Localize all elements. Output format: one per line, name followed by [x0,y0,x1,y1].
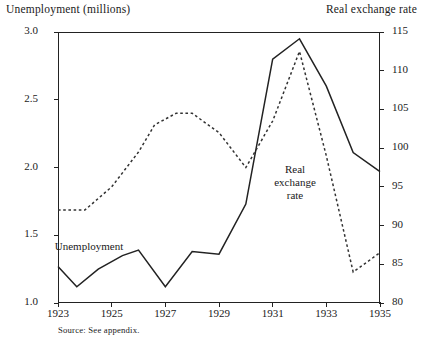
x-tick-label: 1933 [296,307,356,319]
tick-mark [380,302,381,307]
x-tick-label: 1925 [82,307,142,319]
x-tick-label: 1923 [28,307,88,319]
right-tick-label: 110 [392,63,408,75]
series-canvas [58,32,380,303]
right-tick-label: 85 [392,256,403,268]
chart-figure: Unemployment (millions) Real exchange ra… [0,0,423,344]
tick-mark [379,264,384,265]
left-axis-title: Unemployment (millions) [6,3,130,15]
right-tick-label: 80 [392,295,403,307]
annotation-real-exchange-rate-line2: exchange [260,176,330,189]
right-axis-title: Real exchange rate [326,3,417,15]
tick-mark [379,70,384,71]
tick-mark [58,302,59,307]
tick-mark [326,302,327,307]
tick-mark [219,302,220,307]
right-tick-label: 90 [392,218,403,230]
left-tick-label: 2.5 [0,92,38,104]
tick-mark [54,167,59,168]
annotation-real-exchange-rate-line1: Real [260,163,330,176]
tick-mark [54,235,59,236]
tick-mark [272,302,273,307]
left-tick-label: 3.0 [0,24,38,36]
x-tick-label: 1929 [189,307,249,319]
tick-mark [54,32,59,33]
right-tick-label: 100 [392,140,409,152]
x-tick-label: 1931 [243,307,303,319]
x-tick-label: 1927 [135,307,195,319]
tick-mark [111,302,112,307]
tick-mark [379,109,384,110]
source-note: Source: See appendix. [58,325,140,335]
right-tick-label: 115 [392,24,408,36]
left-tick-label: 1.5 [0,227,38,239]
x-tick-label: 1935 [350,307,410,319]
tick-mark [165,302,166,307]
tick-mark [54,99,59,100]
left-tick-label: 1.0 [0,295,38,307]
left-tick-label: 2.0 [0,160,38,172]
tick-mark [379,32,384,33]
series-real-exchange-rate [58,51,380,272]
tick-mark [379,148,384,149]
right-tick-label: 105 [392,101,409,113]
tick-mark [379,225,384,226]
annotation-unemployment: Unemployment [34,240,144,253]
plot-area [58,32,380,303]
annotation-real-exchange-rate-line3: rate [260,189,330,202]
tick-mark [379,186,384,187]
right-tick-label: 95 [392,179,403,191]
